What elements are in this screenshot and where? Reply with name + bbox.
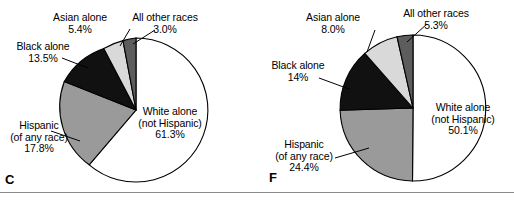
pie-slice-f-hispanic	[340, 108, 413, 181]
pie-label-f-hispanic: Hispanic (of any race) 24.4%	[263, 139, 345, 174]
pie-label-f-asian: Asian alone 8.0%	[293, 12, 373, 35]
pie-label-f-other: All other races 5.3%	[391, 8, 481, 31]
pie-label-c-asian: Asian alone 5.4%	[40, 12, 120, 35]
panel-letter-c: C	[5, 172, 15, 187]
pie-label-f-black: Black alone 14%	[257, 60, 339, 83]
pie-label-c-black: Black alone 13.5%	[2, 41, 84, 64]
pie-label-c-hispanic: Hispanic (of any race) 17.8%	[0, 120, 80, 155]
chart-panel-f: Asian alone 8.0% All other races 5.3% Bl…	[257, 0, 514, 192]
chart-panel-c: Asian alone 5.4% All other races 3.0% Bl…	[0, 0, 257, 192]
pie-label-c-white: White alone (not Hispanic) 61.3%	[128, 106, 212, 141]
panel-letter-f: F	[269, 170, 277, 185]
pie-label-f-white: White alone (not Hispanic) 50.1%	[421, 102, 505, 137]
pie-chart-figure: Asian alone 5.4% All other races 3.0% Bl…	[0, 0, 514, 200]
pie-label-c-other: All other races 3.0%	[120, 12, 210, 35]
figure-bottom-margin	[0, 193, 514, 200]
